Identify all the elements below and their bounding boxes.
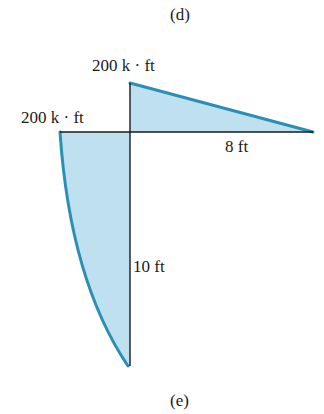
figure: (d) 200 k · ft 200 k · ft 8 ft 10 ft (e) xyxy=(0,0,324,414)
left-moment-label: 200 k · ft xyxy=(21,109,84,126)
caption-bottom: (e) xyxy=(170,392,189,409)
moment-diagram xyxy=(0,0,324,414)
horizontal-length-label: 8 ft xyxy=(225,138,248,155)
top-moment-label: 200 k · ft xyxy=(92,57,155,74)
vertical-length-label: 10 ft xyxy=(133,258,165,275)
vertical-moment-region xyxy=(60,132,130,366)
